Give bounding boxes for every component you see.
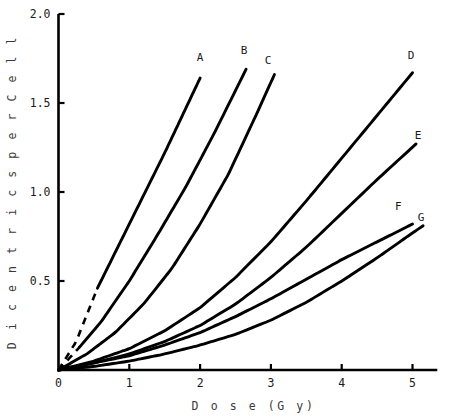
dose-response-chart: 0.51.01.52.0012345 ABCDEFG D o s e (G y)… [0, 0, 455, 418]
curve-label-c: C [265, 54, 272, 67]
curve-label-g: G [418, 211, 425, 224]
curve-label-d: D [408, 49, 415, 62]
curve-label-a: A [197, 51, 204, 64]
x-tick-label: 5 [409, 376, 416, 390]
y-tick-label: 1.5 [30, 96, 51, 110]
x-tick-label: 4 [338, 376, 345, 390]
curve-label-f: F [395, 200, 402, 213]
y-tick-label: 1.0 [30, 185, 51, 199]
curve-a [97, 78, 200, 288]
curve-label-b: B [241, 44, 248, 57]
chart-canvas: 0.51.01.52.0012345 ABCDEFG D o s e (G y)… [0, 0, 455, 418]
curve-b [80, 69, 246, 347]
y-axis-title: D i c e n t r i c s p e r C e l l [5, 35, 19, 349]
x-tick-label: 0 [55, 376, 62, 390]
y-tick-label: 2.0 [30, 7, 51, 21]
x-tick-label: 1 [126, 376, 133, 390]
x-tick-label: 2 [197, 376, 204, 390]
y-tick-label: 0.5 [30, 274, 51, 288]
axes [59, 14, 438, 370]
x-axis-title: D o s e (G y) [192, 399, 316, 413]
curve-series [59, 69, 424, 370]
curve-d [59, 73, 413, 370]
x-tick-label: 3 [267, 376, 274, 390]
curve-label-e: E [415, 129, 422, 142]
curve-f [59, 224, 413, 370]
